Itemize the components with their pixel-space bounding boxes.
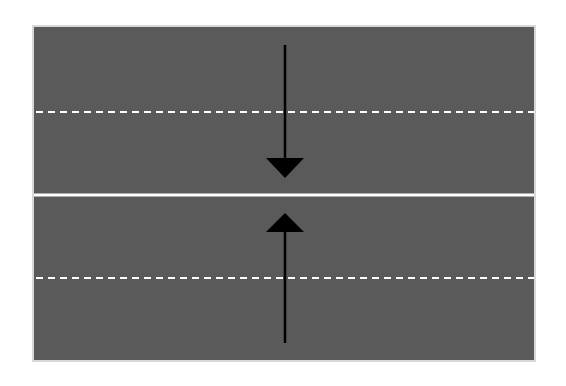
arrow-up-icon xyxy=(266,213,304,343)
road-diagram xyxy=(0,0,566,386)
arrow-down-icon xyxy=(266,45,304,178)
